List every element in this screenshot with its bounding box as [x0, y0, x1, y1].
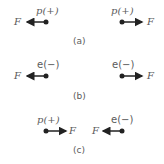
- panel-b-caption: (b): [73, 92, 86, 101]
- force-arrows: [0, 0, 164, 164]
- panel-b-right-vector: [120, 74, 143, 79]
- panel-c-right-force: F: [92, 126, 99, 136]
- panel-b-left-charge: e(−): [37, 60, 59, 70]
- panel-a-caption: (a): [73, 37, 86, 46]
- panel-b-left-vector: [27, 74, 49, 79]
- panel-a-left-force: F: [14, 17, 21, 27]
- proton-dot: [120, 20, 125, 25]
- panel-a-right-vector: [120, 20, 143, 25]
- panel-c-left-force: F: [69, 126, 76, 136]
- panel-c-left-charge: p(+): [37, 115, 60, 125]
- panel-c-right-charge: e(−): [111, 115, 133, 125]
- panel-a-left-charge: p(+): [36, 6, 59, 16]
- panel-a-right-force: F: [147, 17, 154, 27]
- panel-c-caption: (c): [73, 146, 85, 155]
- proton-dot: [44, 20, 49, 25]
- proton-dot: [44, 129, 49, 134]
- panel-c-left-vector: [44, 129, 67, 134]
- panel-c-right-vector: [103, 129, 125, 134]
- panel-b-right-charge: e(−): [112, 60, 134, 70]
- electron-dot: [120, 129, 125, 134]
- panel-b-right-force: F: [147, 71, 154, 81]
- electron-dot: [120, 74, 125, 79]
- panel-b-left-force: F: [14, 71, 21, 81]
- panel-a-left-vector: [27, 20, 49, 25]
- electron-dot: [44, 74, 49, 79]
- panel-a-right-charge: p(+): [111, 6, 134, 16]
